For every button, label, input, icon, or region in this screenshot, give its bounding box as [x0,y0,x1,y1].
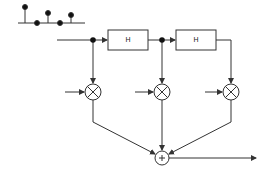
stem-plot [18,5,85,26]
adder [155,151,169,165]
sum-connections [93,100,256,158]
delay-block-1-label: H [108,30,148,50]
fir-filter-diagram: H H [0,0,268,179]
diagram-canvas [0,0,268,179]
multiplier-1 [85,84,101,100]
multiplier-3 [223,84,239,100]
tap-node-1 [90,37,96,43]
multiplier-2 [154,84,170,100]
tap-node-2 [159,37,165,43]
delay-block-2-label: H [176,30,216,50]
